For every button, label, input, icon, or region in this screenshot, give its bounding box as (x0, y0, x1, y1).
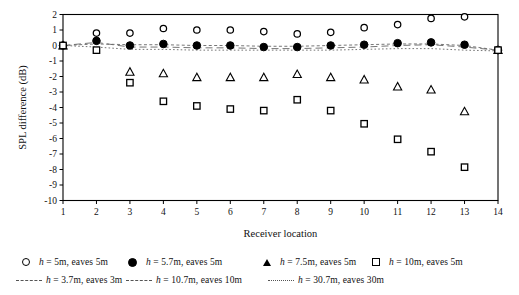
legend-row-lines: h = 3.7m, eaves 3mh = 10.7m, eaves 10mh … (0, 273, 519, 291)
square-open-icon (372, 258, 380, 266)
data-point-marker (495, 47, 501, 53)
data-point-marker (294, 31, 300, 37)
y-tick-label: -1 (49, 56, 57, 66)
data-point-marker (427, 39, 435, 47)
legend-entry-line-2: h = 10.7m, eaves 10m (126, 275, 242, 285)
legend-entry-marker-1: h = 5m, eaves 5m (22, 257, 108, 267)
data-point-marker (461, 41, 469, 49)
data-point-marker (260, 43, 268, 51)
data-point-marker (93, 47, 99, 53)
data-point-marker (327, 29, 333, 35)
data-point-marker (126, 42, 134, 50)
data-point-marker (93, 30, 99, 36)
data-point-marker (327, 42, 335, 50)
y-tick-label: -5 (49, 118, 57, 128)
data-point-marker (394, 39, 402, 47)
data-point-marker (361, 121, 367, 127)
data-point-marker (127, 80, 133, 86)
data-point-marker (461, 164, 467, 170)
x-tick-label: 12 (426, 207, 436, 217)
legend-label: h = 7.5m, eaves 5m (280, 257, 356, 267)
data-point-marker (261, 107, 267, 113)
chart-legend: h = 5m, eaves 5mh = 5.7m, eaves 5mh = 7.… (0, 255, 519, 295)
y-tick-label: -2 (49, 72, 57, 82)
data-point-marker (394, 136, 400, 142)
x-tick-label: 10 (359, 207, 369, 217)
data-point-marker (461, 14, 467, 20)
legend-row-markers: h = 5m, eaves 5mh = 5.7m, eaves 5mh = 7.… (0, 255, 519, 273)
y-tick-label: -7 (49, 149, 57, 159)
legend-label: h = 5m, eaves 5m (39, 257, 108, 267)
x-tick-label: 6 (228, 207, 233, 217)
data-point-marker (227, 27, 233, 33)
y-tick-label: -8 (49, 165, 57, 175)
legend-entry-line-1: h = 3.7m, eaves 3m (16, 275, 122, 285)
circle-filled-icon (128, 258, 137, 267)
y-tick-label: -3 (49, 87, 57, 97)
x-tick-label: 9 (328, 207, 333, 217)
x-tick-label: 5 (194, 207, 199, 217)
y-tick-label: -10 (44, 196, 57, 206)
y-tick-label: -6 (49, 134, 57, 144)
y-tick-label: 0 (52, 41, 57, 51)
data-point-marker (360, 41, 368, 49)
data-point-marker (261, 28, 267, 34)
data-point-marker (428, 15, 434, 21)
data-point-marker (127, 30, 133, 36)
data-point-marker (93, 37, 101, 45)
circle-open-icon (22, 258, 30, 266)
x-tick-label: 14 (493, 207, 503, 217)
data-point-marker (160, 40, 168, 48)
data-point-marker (227, 106, 233, 112)
y-tick-label: -9 (49, 180, 57, 190)
dotted-line-icon (268, 280, 294, 281)
x-tick-label: 7 (261, 207, 266, 217)
y-tick-label: 1 (52, 25, 57, 35)
data-point-marker (293, 43, 301, 51)
data-point-marker (60, 42, 66, 48)
data-point-marker (193, 42, 201, 50)
x-tick-label: 13 (460, 207, 470, 217)
legend-label: h = 3.7m, eaves 3m (46, 275, 122, 285)
legend-entry-marker-3: h = 7.5m, eaves 5m (263, 257, 356, 267)
x-tick-label: 4 (161, 207, 166, 217)
dashed-line-icon (16, 280, 42, 281)
data-point-marker (194, 103, 200, 109)
legend-entry-line-3: h = 30.7m, eaves 30m (268, 275, 384, 285)
x-tick-label: 2 (94, 207, 99, 217)
y-tick-label: -4 (49, 103, 57, 113)
legend-label: h = 10m, eaves 5m (389, 257, 463, 267)
legend-entry-marker-4: h = 10m, eaves 5m (372, 257, 463, 267)
x-tick-label: 11 (393, 207, 402, 217)
legend-label: h = 10.7m, eaves 10m (156, 275, 242, 285)
y-tick-label: 2 (52, 10, 57, 20)
legend-label: h = 5.7m, eaves 5m (146, 257, 222, 267)
data-point-marker (327, 107, 333, 113)
data-point-marker (160, 98, 166, 104)
x-tick-label: 8 (295, 207, 300, 217)
data-point-marker (428, 148, 434, 154)
data-point-marker (294, 97, 300, 103)
data-point-marker (194, 27, 200, 33)
data-point-marker (361, 24, 367, 30)
y-axis-title: SPL difference (dB) (17, 65, 29, 150)
data-point-marker (394, 21, 400, 27)
data-point-marker (227, 42, 235, 50)
x-axis-title: Receiver location (244, 228, 319, 239)
x-tick-label: 3 (128, 207, 133, 217)
legend-label: h = 30.7m, eaves 30m (298, 275, 384, 285)
triangle-open-icon (263, 259, 271, 266)
legend-entry-marker-2: h = 5.7m, eaves 5m (128, 257, 222, 267)
spl-difference-chart: 210-1-2-3-4-5-6-7-8-9-10 123456789101112… (0, 0, 519, 295)
long-dashed-line-icon (126, 280, 152, 281)
data-point-marker (160, 25, 166, 31)
x-tick-label: 1 (61, 207, 66, 217)
